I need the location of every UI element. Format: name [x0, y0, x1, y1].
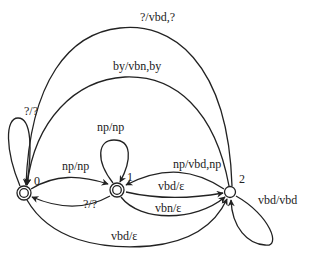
- edge-label-1-0: ?/?: [83, 197, 97, 211]
- node-0: [17, 186, 31, 200]
- edge-1-0: [32, 196, 110, 206]
- edge-label-1-2-vbn: vbn/ε: [155, 201, 181, 215]
- edge-label-1-1: np/np: [97, 120, 124, 134]
- node-0-label: 0: [34, 174, 40, 188]
- edge-label-0-1: np/np: [62, 159, 89, 173]
- edge-label-2-1: np/vbd,np: [173, 157, 221, 171]
- edge-1-1-loop: [101, 140, 129, 183]
- node-2-label: 2: [239, 172, 245, 186]
- state-diagram: 0 1 2 ?/vbd,? by/vbn,by ?/? np/np np/np …: [0, 0, 323, 265]
- edge-label-0-2: vbd/ε: [111, 229, 137, 243]
- node-1: [110, 183, 124, 197]
- edge-0-1: [31, 177, 108, 189]
- node-2: [225, 187, 236, 198]
- edge-label-1-2-vbd: vbd/ε: [158, 179, 184, 193]
- edge-label-2-0-inner: by/vbn,by: [113, 59, 161, 73]
- edge-label-0-0: ?/?: [24, 104, 38, 118]
- node-1-label: 1: [127, 170, 133, 184]
- edge-label-2-2: vbd/vbd: [258, 193, 297, 207]
- edge-label-2-0-outer: ?/vbd,?: [140, 10, 175, 24]
